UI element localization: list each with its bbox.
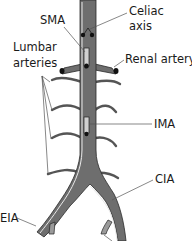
label-celiac-line1: Celiac [129,4,164,18]
label-celiac-line2: axis [129,19,152,33]
label-renal-artery: Renal artery [125,52,192,66]
label-eia: EIA [0,211,19,225]
internal-iliac-stubs [49,220,112,234]
ima [84,117,89,136]
label-ima: IMA [154,117,175,131]
label-cia: CIA [155,172,174,186]
label-lumbar-line1: Lumbar [13,40,57,54]
label-lumbar-line2: arteries [13,56,57,70]
label-sma: SMA [40,13,65,27]
aorta-diagram: Celiac axis SMA Lumbar arteries Renal ar… [0,0,192,241]
sma [84,48,89,69]
lumbar-arteries-left [48,78,82,174]
